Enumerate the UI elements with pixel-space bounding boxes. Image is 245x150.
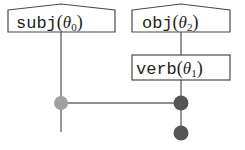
junction-left-light: [54, 96, 68, 110]
subj-func: subj: [16, 14, 57, 33]
junction-right-lower-dark: [174, 126, 189, 141]
junction-right-upper-dark: [174, 96, 189, 111]
obj-func: obj: [142, 14, 173, 33]
node-subj: subj(θ0): [8, 4, 115, 33]
verb-func: verb: [136, 60, 177, 79]
verb-close-paren: ): [197, 58, 203, 79]
obj-param: θ: [179, 13, 187, 32]
subj-close-paren: ): [77, 12, 83, 33]
node-obj: obj(θ2): [132, 4, 230, 33]
obj-close-paren: ): [192, 12, 198, 33]
node-verb: verb(θ1): [132, 55, 230, 80]
verb-param: θ: [183, 59, 191, 78]
tree-diagram: subj(θ0) obj(θ2) verb(θ1): [0, 0, 245, 150]
subj-param: θ: [63, 13, 71, 32]
